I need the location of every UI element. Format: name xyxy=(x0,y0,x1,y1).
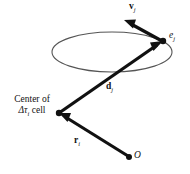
distance-label: dj xyxy=(106,82,113,94)
delta-tau-symbol: Δτ xyxy=(19,105,28,115)
position-arrow xyxy=(59,113,128,156)
element-label: ej xyxy=(169,31,175,43)
cell-center-label: Center of Δτi cell xyxy=(6,94,58,117)
element-node xyxy=(160,38,166,44)
velocity-arrow xyxy=(124,20,162,42)
element-subscript: j xyxy=(173,35,175,42)
origin-label: O xyxy=(134,151,141,161)
diagram-svg xyxy=(0,0,190,174)
origin-node xyxy=(126,154,132,160)
velocity-label: vj xyxy=(129,2,136,14)
distance-subscript: j xyxy=(111,86,113,93)
position-subscript: i xyxy=(78,140,80,147)
figure-canvas: vj ej dj ri O Center of Δτi cell xyxy=(0,0,190,174)
velocity-subscript: j xyxy=(134,6,136,13)
position-label: ri xyxy=(74,136,80,148)
distance-arrow xyxy=(59,41,163,113)
cell-center-line1: Center of xyxy=(14,94,50,104)
cell-center-line2: Δτi cell xyxy=(6,105,58,117)
cell-word: cell xyxy=(29,105,45,115)
